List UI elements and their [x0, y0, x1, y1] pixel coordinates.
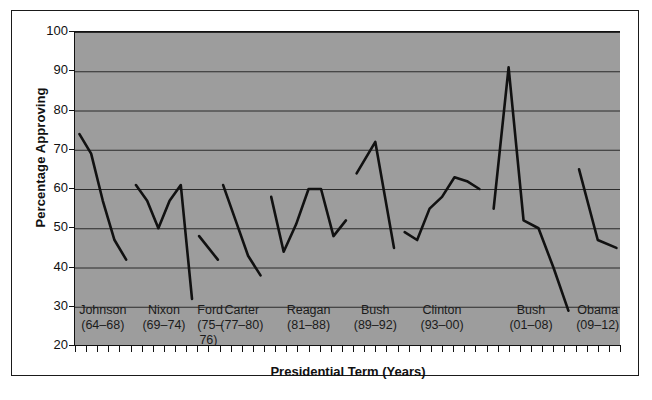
- x-tick-mark: [264, 346, 265, 352]
- x-tick-mark: [498, 346, 499, 352]
- x-tick-mark: [197, 346, 198, 352]
- term-label-ford-1975: Ford(75–76): [197, 303, 219, 345]
- gridlines: [75, 33, 620, 308]
- series-line-carter-1977: [223, 185, 260, 275]
- x-tick-mark: [164, 346, 165, 352]
- x-tick-mark: [286, 346, 287, 352]
- term-years: (75–76): [197, 318, 219, 345]
- x-tick-mark: [576, 346, 577, 352]
- term-years: (89–92): [353, 318, 397, 333]
- x-tick-mark: [309, 346, 310, 352]
- x-tick-mark: [587, 346, 588, 352]
- x-tick-mark: [464, 346, 465, 352]
- x-tick-mark: [398, 346, 399, 352]
- term-years: (77–80): [220, 318, 264, 333]
- term-label-nixon-1969: Nixon(69–74): [131, 303, 198, 333]
- term-label-johnson-1964: Johnson(64–68): [75, 303, 131, 333]
- x-tick-mark: [375, 346, 376, 352]
- x-tick-mark: [275, 346, 276, 352]
- x-tick-mark: [564, 346, 565, 352]
- term-years: (09–12): [576, 318, 620, 333]
- x-axis-ticks: [0, 346, 652, 353]
- x-tick-mark: [475, 346, 476, 352]
- x-tick-mark: [353, 346, 354, 352]
- x-tick-mark: [153, 346, 154, 352]
- term-label-bush-2001: Bush(01–08): [487, 303, 576, 333]
- x-tick-mark: [186, 346, 187, 352]
- series-line-ford-1975: [199, 236, 218, 260]
- x-tick-mark: [75, 346, 76, 352]
- x-tick-mark: [208, 346, 209, 352]
- term-years: (01–08): [487, 318, 576, 333]
- x-tick-mark: [553, 346, 554, 352]
- term-label-bush-1989: Bush(89–92): [353, 303, 397, 333]
- term-label-clinton-1993: Clinton(93–00): [398, 303, 487, 333]
- x-tick-mark: [386, 346, 387, 352]
- x-tick-mark: [253, 346, 254, 352]
- x-tick-mark: [442, 346, 443, 352]
- x-tick-mark: [598, 346, 599, 352]
- y-tick-label-30: 30: [8, 298, 68, 313]
- x-tick-mark: [131, 346, 132, 352]
- x-tick-mark: [231, 346, 232, 352]
- term-years: (69–74): [131, 318, 198, 333]
- x-tick-mark: [119, 346, 120, 352]
- x-tick-mark: [331, 346, 332, 352]
- x-tick-mark: [509, 346, 510, 352]
- x-tick-mark: [542, 346, 543, 352]
- term-label-reagan-1981: Reagan(81–88): [264, 303, 353, 333]
- x-tick-mark: [431, 346, 432, 352]
- x-tick-mark: [409, 346, 410, 352]
- term-years: (93–00): [398, 318, 487, 333]
- series-line-nixon-1969: [136, 185, 192, 299]
- term-name: Clinton: [398, 303, 487, 318]
- x-axis-title: Presidential Term (Years): [75, 364, 621, 379]
- term-name: Bush: [487, 303, 576, 318]
- term-name: Johnson: [75, 303, 131, 318]
- x-tick-mark: [531, 346, 532, 352]
- x-tick-mark: [609, 346, 610, 352]
- term-label-carter-1977: Carter(77–80): [220, 303, 264, 333]
- term-name: Reagan: [264, 303, 353, 318]
- y-tick-label-100: 100: [8, 23, 68, 38]
- term-name: Carter: [220, 303, 264, 318]
- term-years: (64–68): [75, 318, 131, 333]
- x-tick-mark: [342, 346, 343, 352]
- x-tick-mark: [242, 346, 243, 352]
- term-years: (81–88): [264, 318, 353, 333]
- term-label-band: Johnson(64–68)Nixon(69–74)Ford(75–76)Car…: [75, 297, 620, 345]
- series-line-johnson-1964: [79, 134, 126, 260]
- x-tick-mark: [364, 346, 365, 352]
- term-name: Ford: [197, 303, 219, 318]
- term-name: Obama: [576, 303, 620, 318]
- x-tick-mark: [620, 346, 621, 352]
- term-name: Bush: [353, 303, 397, 318]
- y-axis-title: Percentage Approving: [33, 48, 48, 268]
- x-tick-mark: [297, 346, 298, 352]
- series-line-bush-1989: [357, 142, 394, 248]
- x-tick-mark: [420, 346, 421, 352]
- series-line-obama-2009: [579, 169, 616, 248]
- figure: 1009080706050403020 Johnson(64–68)Nixon(…: [0, 0, 652, 400]
- x-tick-mark: [108, 346, 109, 352]
- x-tick-mark: [453, 346, 454, 352]
- plot-area: Johnson(64–68)Nixon(69–74)Ford(75–76)Car…: [75, 31, 620, 345]
- x-tick-mark: [220, 346, 221, 352]
- x-tick-mark: [487, 346, 488, 352]
- x-tick-mark: [142, 346, 143, 352]
- x-tick-mark: [175, 346, 176, 352]
- x-tick-mark: [97, 346, 98, 352]
- series-line-clinton-1993: [405, 177, 480, 240]
- term-label-obama-2009: Obama(09–12): [576, 303, 620, 333]
- series-line-reagan-1981: [271, 189, 346, 252]
- term-name: Nixon: [131, 303, 198, 318]
- x-tick-mark: [520, 346, 521, 352]
- x-tick-mark: [320, 346, 321, 352]
- x-tick-mark: [86, 346, 87, 352]
